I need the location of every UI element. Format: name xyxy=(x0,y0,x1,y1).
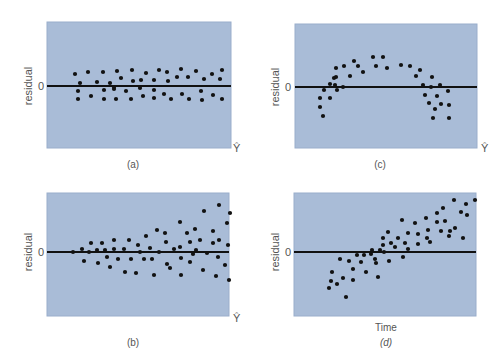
data-point xyxy=(188,260,192,264)
data-point xyxy=(211,241,215,245)
data-point xyxy=(100,241,104,245)
data-point xyxy=(89,94,93,98)
data-point xyxy=(129,97,133,101)
panel-d: residual 0 Time (d) xyxy=(269,193,477,348)
data-point xyxy=(185,231,189,235)
data-point xyxy=(193,227,197,231)
data-point xyxy=(76,97,80,101)
data-point xyxy=(211,229,215,233)
data-point xyxy=(105,255,109,259)
data-point xyxy=(148,246,152,250)
zero-tick-b: 0 xyxy=(38,246,44,258)
data-point xyxy=(89,241,93,245)
data-point xyxy=(122,247,126,251)
data-point xyxy=(356,64,360,68)
data-point xyxy=(114,97,118,101)
data-point xyxy=(452,198,456,202)
data-point xyxy=(76,89,80,93)
xlabel-a: Ŷ xyxy=(233,142,241,154)
data-point xyxy=(164,240,168,244)
data-point xyxy=(108,265,112,269)
data-point xyxy=(453,226,457,230)
data-point xyxy=(142,257,146,261)
data-point xyxy=(447,103,451,107)
data-point xyxy=(400,218,404,222)
data-point xyxy=(82,259,86,263)
data-point xyxy=(334,75,338,79)
ylabel-c: residual xyxy=(269,68,281,107)
data-point xyxy=(172,247,176,251)
data-point xyxy=(439,229,443,233)
data-point xyxy=(374,261,378,265)
data-point xyxy=(448,229,452,233)
data-point xyxy=(166,79,170,83)
data-point xyxy=(439,102,443,106)
data-point xyxy=(112,87,116,91)
data-point xyxy=(112,238,116,242)
data-point xyxy=(355,253,359,257)
data-point xyxy=(359,260,363,264)
data-point xyxy=(162,92,166,96)
data-point xyxy=(361,70,365,74)
data-point xyxy=(102,97,106,101)
caption-c: (c) xyxy=(374,159,386,170)
data-point xyxy=(348,74,352,78)
xlabel-d: Time xyxy=(375,322,397,333)
data-point xyxy=(199,89,203,93)
data-point xyxy=(318,105,322,109)
data-point xyxy=(464,202,468,206)
data-point xyxy=(459,210,463,214)
data-point xyxy=(124,89,128,93)
data-point xyxy=(163,231,167,235)
data-point xyxy=(101,70,105,74)
data-point xyxy=(435,220,439,224)
data-point xyxy=(322,88,326,92)
caption-a: (a) xyxy=(127,159,139,170)
data-point xyxy=(396,236,400,240)
data-point xyxy=(435,94,439,98)
data-point xyxy=(165,262,169,266)
data-point xyxy=(342,64,346,68)
data-point xyxy=(211,93,215,97)
data-point xyxy=(416,242,420,246)
data-point xyxy=(351,267,355,271)
data-point xyxy=(414,74,418,78)
data-point xyxy=(425,236,429,240)
data-point xyxy=(335,88,339,92)
data-point xyxy=(73,72,77,76)
data-point xyxy=(144,234,148,238)
data-point xyxy=(178,245,182,249)
data-point xyxy=(152,88,156,92)
data-point xyxy=(403,241,407,245)
data-point xyxy=(226,243,230,247)
data-point xyxy=(112,247,116,251)
data-point xyxy=(168,266,172,270)
data-point xyxy=(446,89,450,93)
data-point xyxy=(424,216,428,220)
data-point xyxy=(227,278,231,282)
data-point xyxy=(119,76,123,80)
data-point xyxy=(330,270,334,274)
data-point xyxy=(428,240,432,244)
data-point xyxy=(338,257,342,261)
data-point xyxy=(408,64,412,68)
data-point xyxy=(169,97,173,101)
data-point xyxy=(108,81,112,85)
data-point xyxy=(198,238,202,242)
data-point xyxy=(78,81,82,85)
data-point xyxy=(473,198,477,202)
panel-a: residual 0 Ŷ (a) xyxy=(22,22,241,170)
data-point xyxy=(180,92,184,96)
zero-tick-c: 0 xyxy=(285,81,291,93)
residual-plots-figure: residual 0 Ŷ (a) residual 0 Ŷ (c) residu… xyxy=(0,0,499,360)
data-point xyxy=(321,114,325,118)
data-point xyxy=(344,295,348,299)
data-point xyxy=(335,282,339,286)
xlabel-c: Ŷ xyxy=(481,142,489,154)
data-point xyxy=(155,228,159,232)
data-point xyxy=(102,88,106,92)
data-point xyxy=(328,82,332,86)
data-point xyxy=(318,96,322,100)
data-point xyxy=(362,253,366,257)
data-point xyxy=(186,75,190,79)
